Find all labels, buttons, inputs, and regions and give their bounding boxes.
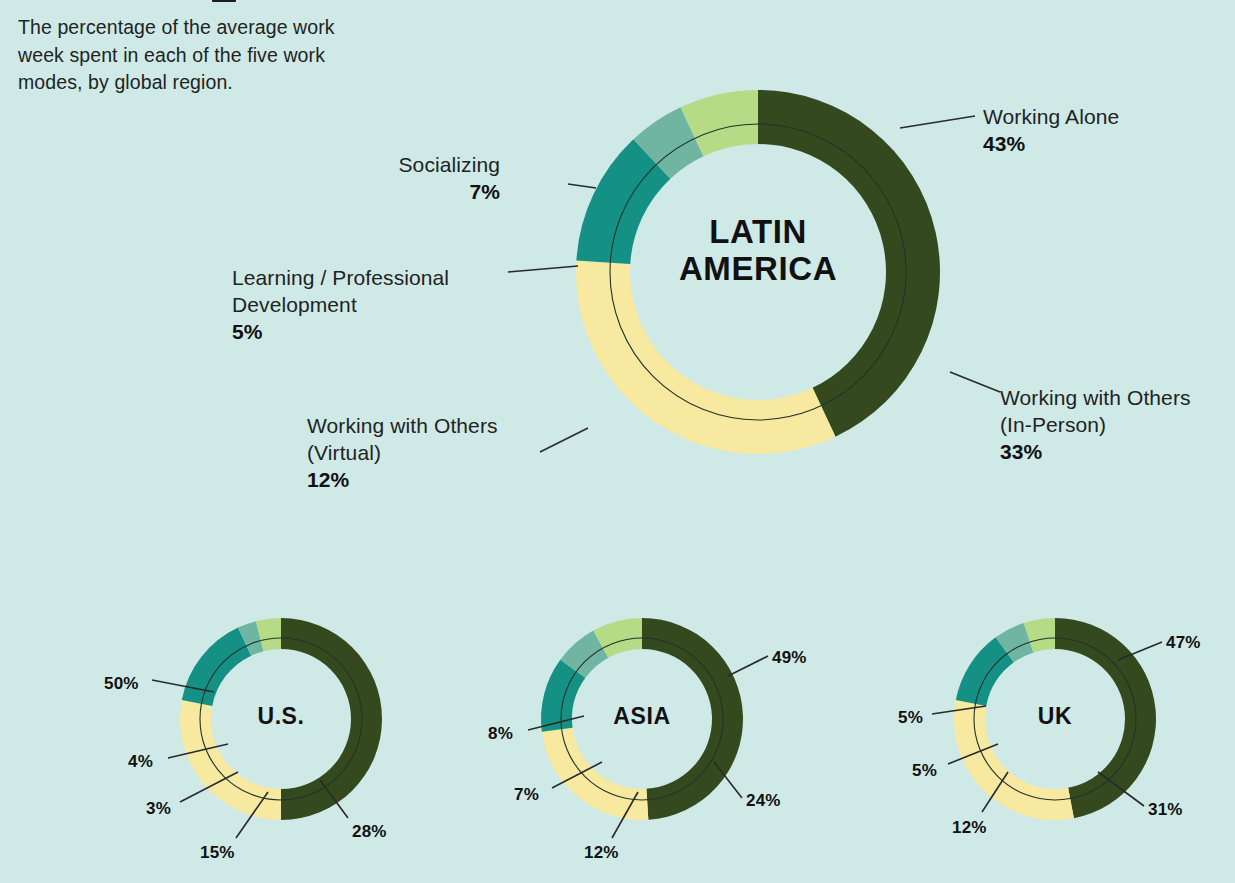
callout-working-alone-value: 43% (983, 131, 1223, 158)
donut-chart-asia: ASIA (527, 604, 757, 834)
donut-segment (182, 628, 251, 706)
slabel-asia-working-in-person: 24% (746, 791, 781, 811)
chart-center-label-asia: ASIA (527, 704, 757, 730)
chart-center-label-latin-america: LATIN AMERICA (548, 214, 968, 288)
callout-working-in-person-value: 33% (1000, 439, 1235, 466)
donut-chart-uk: UK (940, 604, 1170, 834)
callout-socializing-name: Socializing (399, 153, 501, 176)
donut-segment (542, 728, 649, 820)
callout-working-in-person: Working with Others (In-Person) 33% (1000, 385, 1235, 466)
callout-working-in-person-name1: Working with Others (1000, 386, 1191, 409)
slabel-us-learning: 3% (146, 799, 171, 819)
callout-learning-name1: Learning / Professional (232, 266, 449, 289)
chart-center-label-us: U.S. (166, 704, 396, 730)
callout-socializing-value: 7% (318, 179, 500, 206)
callout-learning: Learning / Professional Development 5% (232, 265, 532, 346)
center-label-us: U.S. (257, 703, 304, 729)
slabel-us-socializing: 4% (128, 752, 153, 772)
callout-working-virtual-name2: (Virtual) (307, 441, 381, 464)
chart-center-label-uk: UK (940, 704, 1170, 730)
donut-segment (576, 261, 835, 454)
slabel-uk-working-virtual: 12% (952, 818, 987, 838)
callout-working-virtual: Working with Others (Virtual) 12% (307, 413, 597, 494)
slabel-us-working-in-person: 28% (352, 822, 387, 842)
callout-working-in-person-name2: (In-Person) (1000, 413, 1106, 436)
center-label-uk: UK (1038, 703, 1072, 729)
slabel-us-working-alone: 50% (104, 674, 139, 694)
callout-working-virtual-value: 12% (307, 467, 597, 494)
intro-paragraph: The percentage of the average work week … (18, 14, 348, 97)
callout-working-virtual-name1: Working with Others (307, 414, 498, 437)
slabel-asia-working-virtual: 12% (584, 843, 619, 863)
slabel-asia-working-alone: 49% (772, 648, 807, 668)
callout-working-alone: Working Alone 43% (983, 104, 1223, 158)
callout-learning-value: 5% (232, 319, 532, 346)
slabel-uk-working-in-person: 31% (1148, 800, 1183, 820)
slabel-us-working-virtual: 15% (200, 843, 235, 863)
slabel-asia-learning: 7% (514, 785, 539, 805)
donut-chart-latin-america: LATIN AMERICA (548, 62, 968, 482)
center-label-asia: ASIA (613, 703, 670, 729)
donut-chart-us: U.S. (166, 604, 396, 834)
infographic-canvas: The percentage of the average work week … (0, 0, 1235, 883)
slabel-uk-working-alone: 47% (1166, 633, 1201, 653)
slabel-uk-learning: 5% (912, 761, 937, 781)
center-label-line1: LATIN (709, 213, 807, 250)
callout-learning-name2: Development (232, 293, 357, 316)
slabel-uk-socializing: 5% (898, 708, 923, 728)
center-label-line2: AMERICA (679, 250, 837, 287)
callout-working-alone-name: Working Alone (983, 105, 1119, 128)
slabel-asia-socializing: 8% (488, 724, 513, 744)
callout-socializing: Socializing 7% (318, 152, 500, 206)
title-descender-fragment (212, 0, 236, 2)
